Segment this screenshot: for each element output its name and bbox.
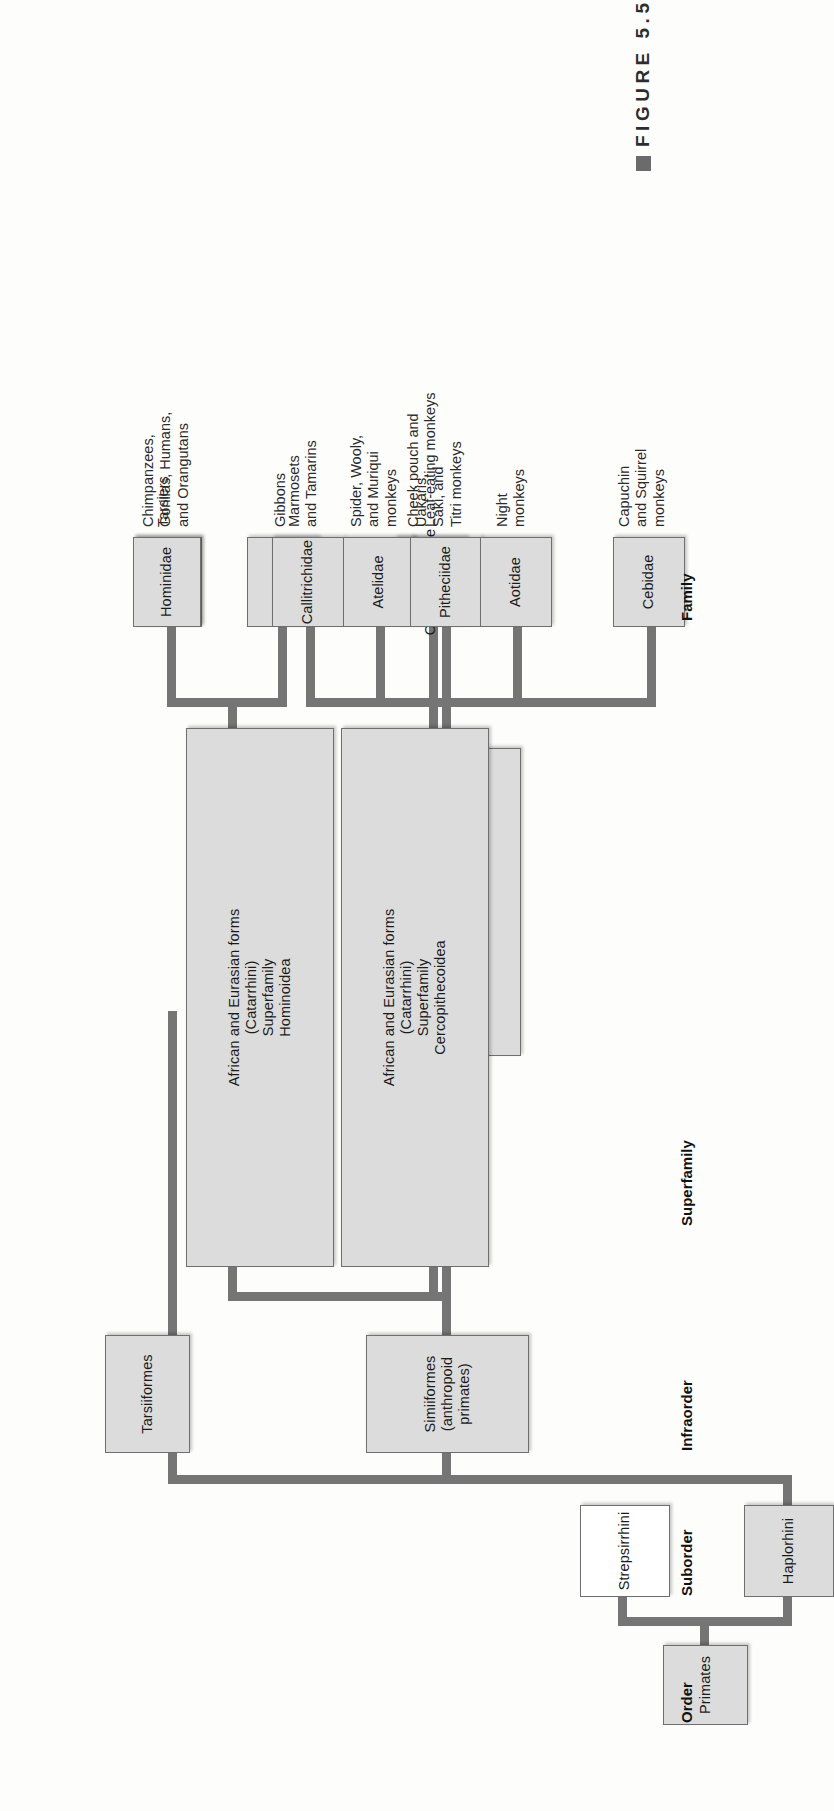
connector-hominoid-spine bbox=[167, 698, 287, 707]
rank-label-family: Family bbox=[678, 573, 695, 621]
node-strepsirrhini[interactable]: Strepsirrhini bbox=[580, 1505, 670, 1597]
rank-label-infraorder: Infraorder bbox=[678, 1380, 695, 1451]
node-tarsiiformes-label: Tarsiiformes bbox=[139, 1354, 156, 1433]
connector-to-hominidae bbox=[167, 627, 176, 707]
connector-to-simiiformes bbox=[442, 1452, 451, 1484]
rank-label-superfamily: Superfamily bbox=[678, 1140, 695, 1226]
connector-to-haplorhini bbox=[783, 1596, 792, 1626]
node-cercopithecoidea-label: African and Eurasian forms (Catarrhini) … bbox=[381, 909, 449, 1087]
node-primates[interactable]: Primates bbox=[663, 1645, 748, 1725]
connector-to-callitrichidae bbox=[306, 627, 315, 707]
family-box-atelidae[interactable]: Atelidae bbox=[343, 537, 415, 627]
connector-superfamily-spine bbox=[228, 1292, 451, 1301]
connector-to-strepsirrhini bbox=[618, 1596, 627, 1626]
family-common-cebidae: Capuchin and Squirrel monkeys bbox=[616, 352, 668, 527]
connector-to-atelidae bbox=[376, 627, 385, 707]
filled-square-bullet-icon bbox=[636, 156, 651, 171]
rank-label-order: Order bbox=[678, 1682, 695, 1723]
family-box-hominidae-label: Hominidae bbox=[158, 547, 175, 617]
node-hominoidea-label: African and Eurasian forms (Catarrhini) … bbox=[226, 909, 294, 1087]
node-cercopithecoidea[interactable]: African and Eurasian forms (Catarrhini) … bbox=[341, 728, 489, 1267]
family-common-pitheciidae: Uakaris, Saki, and Titri monkeys bbox=[413, 352, 465, 527]
family-box-atelidae-label: Atelidae bbox=[370, 555, 387, 608]
figure-caption-label: FIGURE 5.5 bbox=[632, 0, 654, 147]
family-box-pitheciidae-label: Pitheciidae bbox=[437, 546, 454, 618]
connector-to-aotidae bbox=[513, 627, 522, 707]
connector-to-cercopithecoidea bbox=[429, 1266, 438, 1301]
node-tarsiiformes[interactable]: Tarsiiformes bbox=[105, 1335, 190, 1453]
connector-to-tarsiiformes bbox=[168, 1452, 177, 1484]
node-hominoidea[interactable]: African and Eurasian forms (Catarrhini) … bbox=[186, 728, 334, 1267]
rank-label-suborder: Suborder bbox=[678, 1529, 695, 1596]
family-common-callitrichidae: Marmosets and Tamarins bbox=[286, 347, 321, 527]
connector-to-cercopithecidae bbox=[429, 627, 438, 729]
node-simiiformes-label: Simiiformes (anthropoid primates) bbox=[422, 1339, 473, 1449]
connector-infraorder-spine bbox=[168, 1475, 792, 1484]
family-common-hominidae: Chimpanzees, Gorillas, Humans, and Orang… bbox=[140, 297, 192, 527]
family-box-aotidae[interactable]: Aotidae bbox=[480, 537, 552, 627]
node-haplorhini-label: Haplorhini bbox=[780, 1518, 797, 1584]
family-box-aotidae-label: Aotidae bbox=[507, 557, 524, 607]
node-strepsirrhini-label: Strepsirrhini bbox=[616, 1512, 633, 1591]
node-simiiformes[interactable]: Simiiformes (anthropoid primates) bbox=[366, 1335, 529, 1453]
connector-suborder-spine bbox=[618, 1617, 792, 1626]
family-box-pitheciidae[interactable]: Pitheciidae bbox=[410, 537, 482, 627]
family-box-callitrichidae-vis[interactable]: Callitrichidae bbox=[272, 537, 344, 627]
figure-caption: FIGURE 5.5 bbox=[632, 0, 654, 171]
family-box-cebidae-label: Cebidae bbox=[640, 555, 657, 610]
connector-to-hylobatidae bbox=[278, 627, 287, 707]
connector-ceboid-spine bbox=[306, 698, 656, 707]
node-primates-label: Primates bbox=[697, 1656, 714, 1714]
family-box-hominidae-vis[interactable]: Hominidae bbox=[133, 537, 201, 627]
connector-tarsiiformes-tarsidae bbox=[168, 1011, 177, 1336]
connector-to-pitheciidae bbox=[442, 627, 451, 707]
node-haplorhini[interactable]: Haplorhini bbox=[744, 1505, 834, 1597]
family-common-atelidae: Spider, Wooly, and Muriqui monkeys bbox=[348, 342, 400, 527]
connector-to-cebidae bbox=[647, 627, 656, 707]
family-box-callitrichidae-label: Callitrichidae bbox=[299, 540, 316, 624]
family-box-cebidae[interactable]: Cebidae bbox=[613, 537, 685, 627]
connector-to-hominoidea bbox=[228, 1266, 237, 1301]
family-common-aotidae: Night monkeys bbox=[494, 352, 529, 527]
